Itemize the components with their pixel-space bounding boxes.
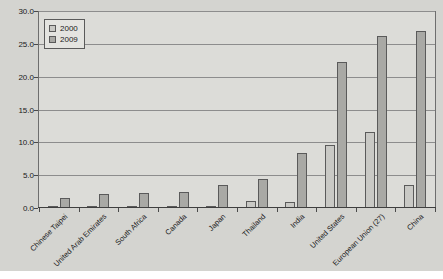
y-axis-tick-mark <box>34 208 38 209</box>
legend-item-2009: 2009 <box>49 34 78 45</box>
x-axis-tick-mark <box>197 208 198 212</box>
y-axis-tick-label: 5.0 <box>0 171 34 180</box>
x-axis-tick-mark <box>158 208 159 212</box>
chart-legend: 2000 2009 <box>44 19 85 49</box>
x-axis-tick-label: South Africa <box>113 212 148 247</box>
x-axis-tick-mark <box>237 208 238 212</box>
bar <box>416 31 426 208</box>
x-axis-tick-mark <box>356 208 357 212</box>
legend-label-2000: 2000 <box>60 23 78 34</box>
chart-figure: 0.05.010.015.020.025.030.0 Chinese Taipe… <box>0 0 443 279</box>
x-axis-tick-label: Japan <box>207 212 228 233</box>
x-axis-tick-mark <box>435 208 436 212</box>
x-axis-tick-mark <box>277 208 278 212</box>
legend-item-2000: 2000 <box>49 23 78 34</box>
bar <box>404 185 414 208</box>
y-axis-tick-label: 10.0 <box>0 138 34 147</box>
x-axis-tick-mark <box>39 208 40 212</box>
y-axis-tick-label: 20.0 <box>0 73 34 82</box>
x-axis-tick-label: China <box>405 212 425 232</box>
x-axis-tick-label: United States <box>308 212 346 250</box>
bar-series-container <box>39 12 435 208</box>
x-axis-tick-label: Thailand <box>240 212 267 239</box>
legend-swatch-2000-icon <box>49 25 56 32</box>
x-axis-tick-label: Chinese Taipei <box>28 212 69 253</box>
x-axis-tick-mark <box>79 208 80 212</box>
bar-group <box>39 12 435 208</box>
bottom-strip <box>0 271 443 279</box>
x-axis-tick-mark <box>118 208 119 212</box>
y-axis-tick-label: 30.0 <box>0 7 34 16</box>
legend-swatch-2009-icon <box>49 36 56 43</box>
x-axis-tick-label: Canada <box>163 212 188 237</box>
x-axis-tick-mark <box>316 208 317 212</box>
y-axis-tick-label: 15.0 <box>0 106 34 115</box>
y-axis-tick-label: 25.0 <box>0 40 34 49</box>
legend-label-2009: 2009 <box>60 34 78 45</box>
x-axis-tick-label: India <box>289 212 307 230</box>
y-axis-tick-label: 0.0 <box>0 204 34 213</box>
x-axis-tick-mark <box>395 208 396 212</box>
